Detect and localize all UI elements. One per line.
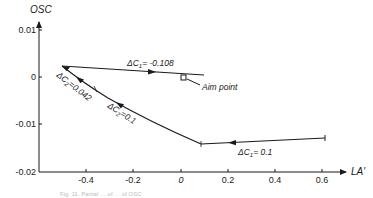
x-tick-label: -0.2	[125, 175, 141, 185]
segment-dc1-positive	[201, 138, 325, 144]
chart: OSC 0.01 0 -0.01 -0.02 LA′ -0.4 -0.2 0 0…	[0, 0, 373, 198]
aim-point-label: Aim point	[201, 82, 238, 92]
figure-caption: Fig. 11. Partial … of … of OSC	[60, 191, 142, 197]
aim-point: Aim point	[181, 75, 238, 92]
aim-point-marker	[181, 75, 186, 80]
x-tick-label: 0.6	[316, 175, 329, 185]
x-axis-label: LA′	[351, 166, 366, 177]
x-tick-label: -0.4	[78, 175, 94, 185]
x-tick-label: 0.4	[269, 175, 282, 185]
trajectory	[62, 66, 325, 147]
direction-arrows	[62, 66, 236, 145]
annotation-dc1-bottom: ΔC1= 0.1	[237, 147, 273, 158]
x-tick-label: 0	[178, 175, 183, 185]
y-axis-label: OSC	[30, 4, 52, 15]
y-tick-label: 0.01	[18, 25, 36, 35]
x-axis: LA′ -0.4 -0.2 0 0.2 0.4 0.6	[39, 166, 366, 185]
y-axis: OSC 0.01 0 -0.01 -0.02	[15, 4, 52, 177]
x-tick-label: 0.2	[222, 175, 235, 185]
y-tick-label: 0	[31, 72, 36, 82]
y-tick-label: -0.02	[15, 167, 36, 177]
segment-dc2	[62, 66, 201, 144]
annotation-dc1-top: ΔC1= -0.108	[126, 58, 174, 69]
arrow-right-icon	[148, 69, 156, 74]
y-tick-label: -0.01	[15, 119, 36, 129]
arrow-left-icon	[228, 140, 236, 145]
